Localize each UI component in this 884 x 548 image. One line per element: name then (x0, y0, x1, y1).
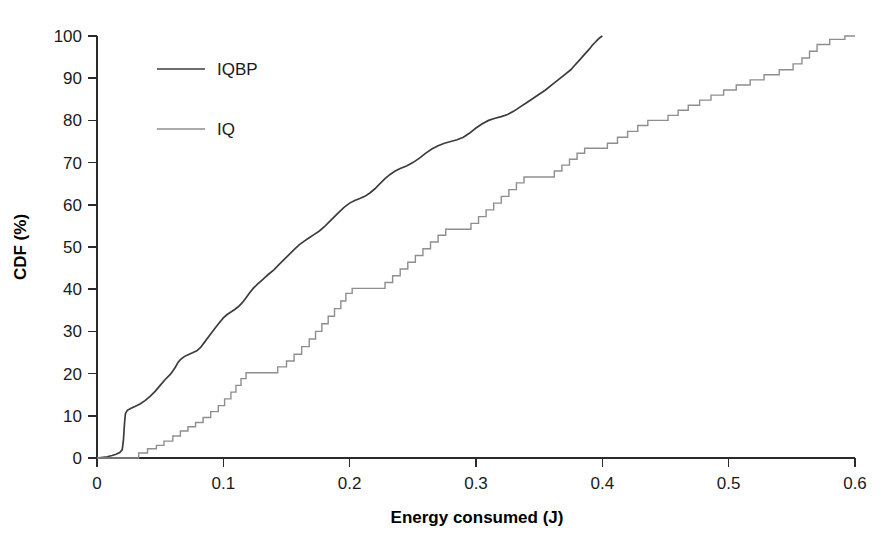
y-axis-ticks (88, 36, 97, 458)
series-line-iqbp (97, 36, 602, 458)
y-tick-label: 0 (73, 449, 82, 468)
x-tick-label: 0.4 (591, 474, 615, 493)
y-tick-label: 80 (63, 111, 82, 130)
y-tick-label: 30 (63, 322, 82, 341)
chart-legend: IQBPIQ (157, 60, 258, 139)
y-tick-label: 20 (63, 365, 82, 384)
y-axis-tick-labels: 0102030405060708090100 (54, 27, 82, 468)
y-tick-label: 70 (63, 154, 82, 173)
legend-label-iq: IQ (217, 120, 235, 139)
cdf-plot: 00.10.20.30.40.50.6 01020304050607080901… (0, 0, 884, 548)
series-lines (97, 36, 855, 458)
x-tick-label: 0.2 (338, 474, 362, 493)
y-tick-label: 100 (54, 27, 82, 46)
series-line-iq (97, 36, 855, 458)
x-axis-ticks (97, 458, 855, 467)
legend-label-iqbp: IQBP (217, 60, 258, 79)
axis-frame (97, 36, 855, 458)
x-tick-label: 0 (92, 474, 101, 493)
y-tick-label: 10 (63, 407, 82, 426)
y-tick-label: 40 (63, 280, 82, 299)
y-tick-label: 90 (63, 69, 82, 88)
y-tick-label: 60 (63, 196, 82, 215)
x-axis-title: Energy consumed (J) (391, 508, 564, 527)
x-tick-label: 0.6 (843, 474, 867, 493)
x-tick-label: 0.5 (717, 474, 741, 493)
y-axis-title: CDF (%) (11, 214, 30, 280)
x-axis-tick-labels: 00.10.20.30.40.50.6 (92, 474, 867, 493)
x-tick-label: 0.1 (212, 474, 236, 493)
x-tick-label: 0.3 (464, 474, 488, 493)
chart-figure: 00.10.20.30.40.50.6 01020304050607080901… (0, 0, 884, 548)
y-tick-label: 50 (63, 238, 82, 257)
